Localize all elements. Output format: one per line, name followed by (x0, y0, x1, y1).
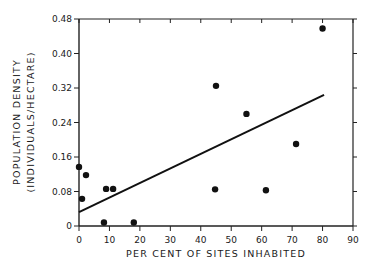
y-axis-label-line2: (INDIVIDUALS/HECTARE) (25, 51, 36, 192)
data-point (83, 172, 89, 178)
x-tick-label: 50 (225, 235, 237, 245)
y-tick-label: 0.40 (52, 49, 72, 59)
x-axis-label: PER CENT OF SITES INHABITED (126, 248, 306, 259)
y-tick-label: 0 (66, 221, 72, 231)
y-tick-label: 0.08 (52, 187, 72, 197)
data-point (243, 111, 249, 117)
regression-line-group (79, 95, 324, 212)
y-tick-label: 0.16 (52, 152, 72, 162)
x-tick-label: 30 (165, 235, 177, 245)
y-tick-label: 0.24 (52, 118, 72, 128)
data-point (319, 25, 325, 31)
data-point (110, 186, 116, 192)
x-tick-label: 0 (76, 235, 82, 245)
plot-frame (79, 19, 353, 226)
y-tick-label: 0.32 (52, 83, 72, 93)
y-axis-ticks: 00.080.160.240.320.400.48 (52, 14, 357, 231)
x-tick-label: 20 (134, 235, 146, 245)
data-point (79, 196, 85, 202)
data-point (293, 141, 299, 147)
data-point (263, 187, 269, 193)
data-point (213, 83, 219, 89)
data-point (131, 219, 137, 225)
x-tick-label: 10 (104, 235, 116, 245)
x-tick-label: 70 (286, 235, 298, 245)
x-tick-label: 40 (195, 235, 207, 245)
y-axis-label-line1: POPULATION DENSITY (11, 59, 22, 185)
x-tick-label: 60 (256, 235, 268, 245)
data-point (101, 219, 107, 225)
data-point (103, 186, 109, 192)
regression-line (79, 95, 324, 212)
data-point (76, 164, 82, 170)
x-axis-ticks: 0102030405060708090 (76, 19, 359, 245)
x-tick-label: 90 (347, 235, 359, 245)
data-point (212, 186, 218, 192)
scatter-chart: 0102030405060708090 00.080.160.240.320.4… (0, 0, 374, 274)
y-tick-label: 0.48 (52, 14, 72, 24)
x-tick-label: 80 (317, 235, 329, 245)
